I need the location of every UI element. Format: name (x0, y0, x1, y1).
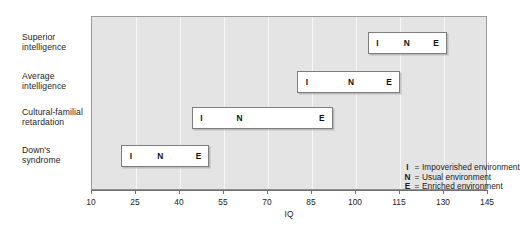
bar-marker-N: N (157, 151, 163, 161)
tick-mark-40 (179, 190, 180, 194)
bar-marker-E: E (433, 38, 439, 48)
tick-mark-145 (487, 190, 488, 194)
range-bar-1: INE (368, 32, 447, 54)
chart-legend: I=Impoverished environmentN=Usual enviro… (403, 163, 520, 192)
legend-label: Usual environment (422, 172, 491, 182)
x-axis-title: IQ (91, 209, 487, 219)
category-label-4: Down'ssyndrome (22, 145, 100, 165)
category-label-2: Averageintelligence (22, 71, 100, 91)
tick-label-145: 145 (480, 197, 494, 207)
tick-mark-85 (311, 190, 312, 194)
range-bar-2: INE (297, 71, 400, 93)
category-label-line: intelligence (22, 42, 100, 52)
bar-marker-I: I (376, 38, 379, 48)
category-label-line: Superior (22, 32, 100, 42)
category-label-line: intelligence (22, 81, 100, 91)
bar-marker-E: E (386, 77, 392, 87)
bar-marker-N: N (348, 77, 354, 87)
tick-mark-70 (267, 190, 268, 194)
tick-mark-10 (91, 190, 92, 194)
tick-mark-115 (399, 190, 400, 194)
category-label-line: Average (22, 71, 100, 81)
plot-area: INEINEINEINE I=Impoverished environmentN… (91, 16, 487, 190)
gridline-100 (356, 17, 357, 189)
bar-marker-N: N (237, 113, 243, 123)
gridline-55 (224, 17, 225, 189)
tick-label-70: 70 (262, 197, 271, 207)
category-label-line: Cultural-familial (22, 107, 100, 117)
bar-marker-E: E (319, 113, 325, 123)
tick-mark-130 (443, 190, 444, 194)
tick-mark-100 (355, 190, 356, 194)
x-axis-line (91, 190, 487, 191)
tick-label-25: 25 (130, 197, 139, 207)
bar-marker-N: N (404, 38, 410, 48)
category-label-3: Cultural-familialretardation (22, 107, 100, 127)
bar-marker-E: E (196, 151, 202, 161)
gridline-85 (312, 17, 313, 189)
range-bar-3: INE (192, 107, 333, 129)
bar-marker-I: I (200, 113, 203, 123)
tick-label-55: 55 (218, 197, 227, 207)
tick-label-100: 100 (348, 197, 362, 207)
range-bar-4: INE (121, 145, 209, 167)
gridline-70 (268, 17, 269, 189)
bar-marker-I: I (306, 77, 309, 87)
category-label-line: syndrome (22, 155, 100, 165)
legend-label: Impoverished environment (422, 162, 520, 172)
tick-label-40: 40 (174, 197, 183, 207)
tick-label-10: 10 (86, 197, 95, 207)
category-label-line: Down's (22, 145, 100, 155)
category-label-1: Superiorintelligence (22, 32, 100, 52)
category-label-line: retardation (22, 117, 100, 127)
tick-mark-55 (223, 190, 224, 194)
tick-label-130: 130 (436, 197, 450, 207)
bar-marker-I: I (130, 151, 133, 161)
tick-label-85: 85 (306, 197, 315, 207)
tick-label-115: 115 (392, 197, 405, 207)
tick-mark-25 (135, 190, 136, 194)
